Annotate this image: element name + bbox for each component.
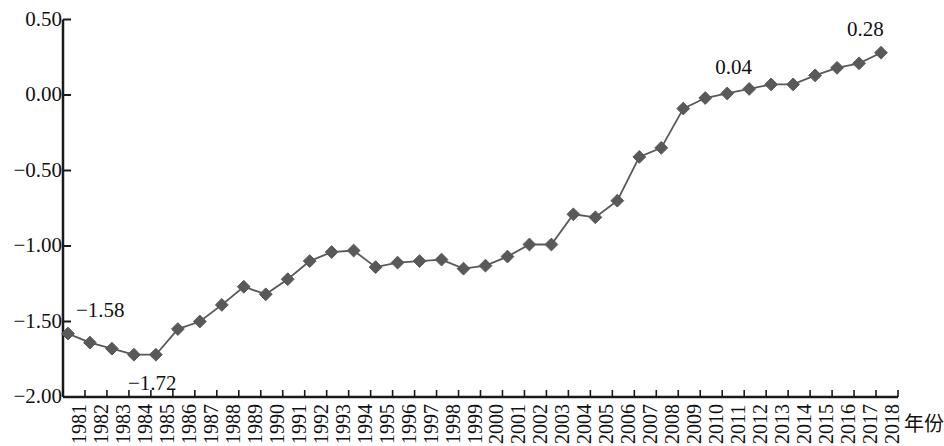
x-axis-tick-label: 2017 — [860, 404, 880, 444]
x-axis-tick-label: 1981 — [69, 404, 89, 444]
x-axis-tick-label: 2018 — [882, 404, 902, 444]
data-point-label: −1.58 — [76, 300, 125, 321]
data-point-marker — [743, 83, 756, 96]
x-axis-tick-label: 2008 — [662, 404, 682, 444]
x-axis-tick-label: 1992 — [311, 404, 331, 444]
x-axis-tick-label: 1996 — [399, 404, 419, 444]
x-axis-tick-label: 2003 — [552, 404, 572, 444]
x-axis-tick-label: 1994 — [355, 404, 375, 444]
data-point-marker — [875, 46, 888, 59]
data-point-marker — [831, 61, 844, 74]
x-axis-tick-label: 2007 — [640, 404, 660, 444]
x-axis-tick-label: 1999 — [465, 404, 485, 444]
data-point-marker — [787, 78, 800, 91]
data-point-marker — [391, 256, 404, 269]
x-axis-tick-label: 1983 — [113, 404, 133, 444]
y-axis-tick-label: −1.50 — [0, 311, 62, 332]
y-axis-tick-label: −1.00 — [0, 235, 62, 256]
data-point-label: 0.04 — [715, 57, 752, 78]
x-axis-tick-label: 1990 — [267, 404, 287, 444]
data-point-label: 0.28 — [847, 19, 884, 40]
data-point-marker — [633, 151, 646, 164]
data-point-marker — [479, 259, 492, 272]
data-point-label: −1.72 — [128, 373, 177, 394]
data-point-marker — [457, 262, 470, 275]
x-axis-tick-label: 2014 — [794, 404, 814, 444]
x-axis-tick-label: 1995 — [377, 404, 397, 444]
x-axis-tick-label: 2010 — [706, 404, 726, 444]
data-point-marker — [128, 348, 141, 361]
x-axis-tick-label: 1988 — [223, 404, 243, 444]
y-axis-tick-label: −2.00 — [0, 386, 62, 407]
x-axis-tick-label: 2015 — [816, 404, 836, 444]
x-axis-tick-label: 1982 — [91, 404, 111, 444]
data-point-marker — [523, 238, 536, 251]
data-point-marker — [677, 102, 690, 115]
data-point-marker — [545, 238, 558, 251]
data-point-marker — [853, 57, 866, 70]
data-point-marker — [325, 246, 338, 259]
x-axis-tick-label: 2016 — [838, 404, 858, 444]
x-axis-tick-label: 1998 — [443, 404, 463, 444]
y-axis-tick-label: −0.50 — [0, 160, 62, 181]
x-axis-tick-label: 2004 — [574, 404, 594, 444]
data-point-marker — [501, 250, 514, 263]
x-axis-tick-label: 1984 — [135, 404, 155, 444]
data-point-marker — [106, 342, 119, 355]
x-axis-tick-label: 2002 — [530, 404, 550, 444]
data-point-marker — [655, 141, 668, 154]
x-axis-tick-label: 2000 — [486, 404, 506, 444]
y-axis-tick-label: 0.00 — [0, 84, 62, 105]
x-axis-tick-label: 1986 — [179, 404, 199, 444]
x-axis-tick-label: 1985 — [157, 404, 177, 444]
x-axis-tick-label: 2005 — [596, 404, 616, 444]
x-axis-tick-label: 2001 — [508, 404, 528, 444]
data-point-marker — [84, 336, 97, 349]
x-axis-tick-label: 2012 — [750, 404, 770, 444]
data-point-marker — [699, 92, 712, 105]
data-point-marker — [413, 255, 426, 268]
x-axis-tick-label: 2006 — [618, 404, 638, 444]
x-axis-tick-label: 2013 — [772, 404, 792, 444]
x-axis-title: 年份 — [904, 414, 944, 434]
series-line — [68, 53, 881, 355]
x-axis-tick-label: 1991 — [289, 404, 309, 444]
data-point-marker — [721, 87, 734, 100]
x-axis-tick-label: 1987 — [201, 404, 221, 444]
x-axis-tick-label: 1993 — [333, 404, 353, 444]
x-axis-tick-label: 2009 — [684, 404, 704, 444]
x-axis-tick-label: 1997 — [421, 404, 441, 444]
data-point-marker — [765, 78, 778, 91]
data-point-marker — [259, 288, 272, 301]
x-axis-tick-label: 2011 — [728, 405, 748, 444]
data-point-marker — [809, 69, 822, 82]
data-point-marker — [435, 253, 448, 266]
data-point-marker — [567, 208, 580, 221]
y-axis-tick-label: 0.50 — [0, 9, 62, 30]
x-axis-tick-label: 1989 — [245, 404, 265, 444]
